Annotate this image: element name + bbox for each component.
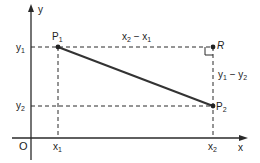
x1-label: x1 <box>53 141 62 153</box>
r-label: R <box>217 40 224 51</box>
y2-label: y2 <box>16 100 25 112</box>
origin-label: O <box>19 140 28 152</box>
x-axis-arrow-icon <box>239 135 248 141</box>
y-axis-arrow-icon <box>28 4 34 12</box>
y-axis-label: y <box>38 4 43 15</box>
y1-label: y1 <box>16 42 25 54</box>
point-p1 <box>56 45 61 50</box>
y-axis <box>28 4 34 160</box>
p2-label: P2 <box>216 101 227 113</box>
x2-label: x2 <box>208 141 217 153</box>
p1-label: P1 <box>52 31 63 43</box>
guide-lines <box>31 47 213 138</box>
vertical-difference-label: y1 − y2 <box>218 69 247 81</box>
point-p2 <box>211 104 216 109</box>
segment-p1-p2 <box>58 47 213 106</box>
horizontal-difference-label: x2 − x1 <box>122 31 151 43</box>
distance-formula-diagram: y x O y1 y2 x1 x2 P1 R P2 x2 − x1 y1 − y… <box>0 0 260 163</box>
x-axis-label: x <box>238 142 243 153</box>
point-r <box>211 45 216 50</box>
